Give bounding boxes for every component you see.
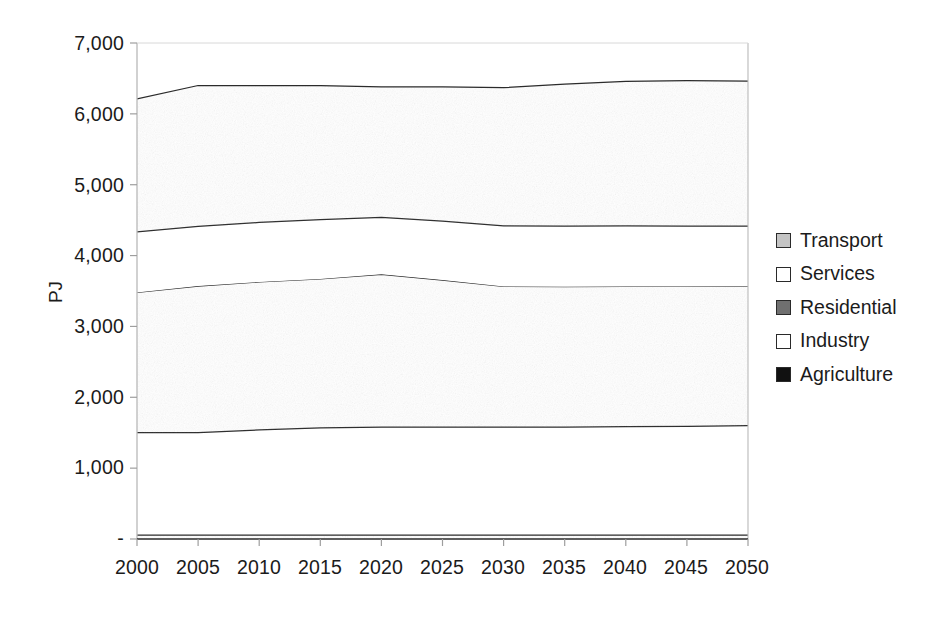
x-axis-ticks	[137, 539, 748, 546]
legend-item-industry[interactable]: Industry	[776, 329, 896, 354]
legend-item-services[interactable]: Services	[776, 262, 896, 287]
legend-item-residential[interactable]: Residential	[776, 295, 896, 320]
area-band-transport	[137, 81, 748, 232]
legend-swatch-agriculture	[776, 367, 791, 382]
area-band-residential	[137, 274, 748, 432]
legend-label-services: Services	[800, 264, 875, 284]
legend-swatch-transport	[776, 233, 791, 248]
y-axis-ticks	[130, 43, 137, 539]
legend-label-agriculture: Agriculture	[800, 365, 893, 385]
chart-legend: Transport Services Residential Industry …	[776, 228, 896, 387]
series-layer	[137, 81, 748, 539]
stacked-area-chart: PJ 7,000 6,000 5,000 4,000 3,000 2,000 1…	[0, 0, 940, 620]
legend-label-residential: Residential	[800, 298, 896, 318]
legend-label-transport: Transport	[800, 231, 883, 251]
legend-swatch-services	[776, 267, 791, 282]
legend-item-agriculture[interactable]: Agriculture	[776, 362, 896, 387]
legend-label-industry: Industry	[800, 331, 869, 351]
legend-swatch-industry	[776, 334, 791, 349]
area-band-industry	[137, 426, 748, 535]
legend-swatch-residential	[776, 300, 791, 315]
legend-item-transport[interactable]: Transport	[776, 228, 896, 253]
